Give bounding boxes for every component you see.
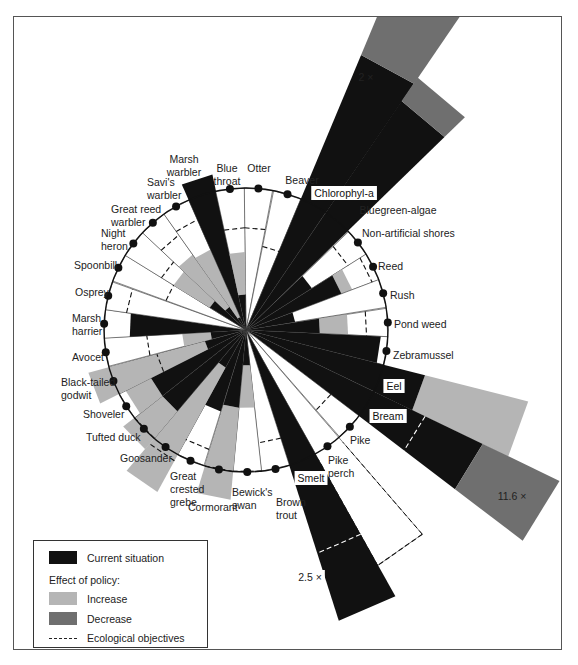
label-rush: Rush	[390, 289, 415, 301]
svg-text:Bluegreen-algae: Bluegreen-algae	[359, 204, 436, 216]
svg-text:warbler: warbler	[166, 166, 202, 178]
label-bluegreen-algae: Bluegreen-algae	[359, 204, 436, 216]
multiplier-annotation: 2 ×	[359, 71, 374, 83]
label-bewick-s-swan: Bewick'sswan	[232, 486, 273, 511]
svg-text:Night: Night	[101, 227, 126, 239]
species-dot	[272, 465, 280, 473]
label-marsh-warbler: Marshwarbler	[166, 153, 202, 178]
svg-text:Rush: Rush	[390, 289, 415, 301]
legend-decrease-label: Decrease	[87, 613, 132, 625]
current-swatch	[49, 551, 77, 564]
legend-effect-label: Effect of policy:	[49, 574, 120, 586]
species-dot	[369, 263, 377, 271]
svg-text:2 ×: 2 ×	[359, 71, 374, 83]
species-dot	[172, 202, 180, 210]
label-marsh-harrier: Marshharrier	[72, 312, 103, 337]
species-dot	[346, 423, 354, 431]
svg-text:Marsh: Marsh	[72, 312, 101, 324]
label-osprey: Osprey	[75, 286, 110, 298]
svg-text:warbler: warbler	[110, 216, 146, 228]
label-bream: Bream	[370, 409, 407, 423]
legend-increase: Increase	[49, 592, 127, 605]
species-dot	[140, 425, 148, 433]
label-night-heron: Nightheron	[101, 227, 128, 252]
species-dot	[187, 457, 195, 465]
decrease-swatch	[49, 612, 77, 625]
label-spoonbill: Spoonbill	[74, 259, 117, 271]
wedges-layer	[88, 0, 559, 621]
svg-text:2.5 ×: 2.5 ×	[298, 571, 322, 583]
species-dot	[284, 190, 292, 198]
svg-text:11.6 ×: 11.6 ×	[498, 490, 527, 502]
label-tufted-duck: Tufted duck	[86, 431, 141, 443]
species-dot	[243, 468, 251, 476]
svg-text:Great: Great	[170, 470, 196, 482]
objective-dash-icon	[49, 638, 77, 639]
label-pike: Pike	[350, 434, 371, 446]
svg-text:Spoonbill: Spoonbill	[74, 259, 117, 271]
label-blue-throat: Bluethroat	[214, 162, 241, 187]
svg-text:warbler: warbler	[146, 189, 182, 201]
svg-text:Smelt: Smelt	[298, 472, 325, 484]
svg-text:Otter: Otter	[247, 162, 271, 174]
species-dot	[384, 319, 392, 327]
species-dot	[129, 240, 137, 248]
label-shoveler: Shoveler	[83, 408, 125, 420]
svg-text:Zebramussel: Zebramussel	[393, 349, 454, 361]
multiplier-annotation: 2.5 ×	[295, 570, 325, 584]
species-dot	[323, 442, 331, 450]
svg-text:Pike: Pike	[328, 454, 349, 466]
svg-text:Chlorophyl-a: Chlorophyl-a	[314, 187, 374, 199]
species-dot	[254, 185, 262, 193]
svg-text:trout: trout	[276, 509, 297, 521]
label-otter: Otter	[247, 162, 271, 174]
multiplier-annotation: 11.6 ×	[498, 490, 527, 502]
svg-text:crested: crested	[170, 483, 205, 495]
legend-objective: Ecological objectives	[49, 632, 184, 644]
svg-text:Goosander: Goosander	[120, 452, 172, 464]
legend-effect-header: Effect of policy:	[49, 574, 120, 586]
increase-swatch	[49, 592, 77, 605]
svg-text:grebe: grebe	[170, 496, 197, 508]
legend-current: Current situation	[49, 551, 164, 564]
label-brown-trout: Browntrout	[276, 496, 306, 521]
species-dot	[354, 239, 362, 247]
svg-text:Marsh: Marsh	[169, 153, 198, 165]
legend-current-label: Current situation	[87, 552, 164, 564]
legend-decrease: Decrease	[49, 612, 132, 625]
label-goosander: Goosander	[120, 452, 172, 464]
svg-text:Bream: Bream	[373, 410, 404, 422]
svg-text:Non-artificial shores: Non-artificial shores	[362, 227, 455, 239]
svg-text:Eel: Eel	[386, 380, 401, 392]
label-non-artificial-shores: Non-artificial shores	[362, 227, 455, 239]
svg-text:Pond weed: Pond weed	[394, 318, 447, 330]
label-zebramussel: Zebramussel	[393, 349, 454, 361]
label-chlorophyl-a: Chlorophyl-a	[311, 186, 377, 200]
svg-text:Bewick's: Bewick's	[232, 486, 273, 498]
svg-text:throat: throat	[214, 175, 241, 187]
svg-text:Blue: Blue	[216, 162, 237, 174]
svg-text:Tufted duck: Tufted duck	[86, 431, 141, 443]
label-eel: Eel	[383, 379, 404, 393]
species-dot	[162, 443, 170, 451]
species-dot	[149, 219, 157, 227]
svg-text:Shoveler: Shoveler	[83, 408, 125, 420]
svg-text:Brown: Brown	[276, 496, 306, 508]
species-dot	[215, 465, 223, 473]
svg-text:Reed: Reed	[378, 260, 403, 272]
legend-objective-label: Ecological objectives	[87, 632, 184, 644]
label-beaver: Beaver	[285, 174, 319, 186]
svg-text:Beaver: Beaver	[285, 174, 319, 186]
label-avocet: Avocet	[72, 351, 104, 363]
svg-text:Great reed: Great reed	[111, 203, 161, 215]
label-reed: Reed	[378, 260, 403, 272]
svg-text:heron: heron	[101, 240, 128, 252]
species-dot	[379, 289, 387, 297]
label-savi-s-warbler: Savi'swarbler	[146, 176, 182, 201]
svg-text:perch: perch	[328, 467, 354, 479]
svg-text:harrier: harrier	[72, 325, 103, 337]
svg-text:Pike: Pike	[350, 434, 371, 446]
svg-text:Osprey: Osprey	[75, 286, 110, 298]
svg-text:Black-tailed: Black-tailed	[61, 376, 115, 388]
svg-text:godwit: godwit	[61, 389, 91, 401]
